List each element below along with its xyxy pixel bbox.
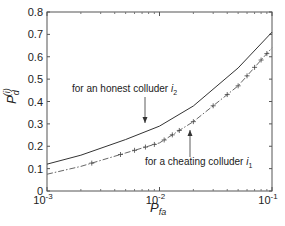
arrow-honest-icon <box>143 97 148 123</box>
y-tick-label: 0.8 <box>28 6 43 18</box>
y-axis-label: Pd(i) <box>2 88 21 104</box>
y-tick-label: 0.4 <box>28 96 43 108</box>
y-tick-label: 0.7 <box>28 28 43 40</box>
annotation-cheating: for a cheating colluder i1 <box>145 156 252 169</box>
y-tick-label: 0.1 <box>28 163 43 175</box>
y-tick-label: 0.6 <box>28 51 43 63</box>
y-tick-label: 0.5 <box>28 73 43 85</box>
plot-series <box>47 32 272 174</box>
x-axis-label: Pfa <box>150 200 166 217</box>
y-tick-label: 0.2 <box>28 140 43 152</box>
x-tick-label: 10-1 <box>258 192 278 206</box>
annotation-honest: for an honest colluder i2 <box>72 83 177 96</box>
series-honest-line <box>47 32 272 164</box>
roc-chart: 00.10.20.30.40.50.60.70.810-310-210-1 fo… <box>0 0 285 226</box>
y-tick-label: 0.3 <box>28 118 43 130</box>
svg-text:Pd(i): Pd(i) <box>2 88 21 104</box>
x-tick-label: 10-3 <box>33 192 53 206</box>
plot-axes: 00.10.20.30.40.50.60.70.810-310-210-1 <box>28 6 279 206</box>
arrow-cheating-icon <box>188 130 193 157</box>
svg-text:Pfa: Pfa <box>150 200 166 217</box>
